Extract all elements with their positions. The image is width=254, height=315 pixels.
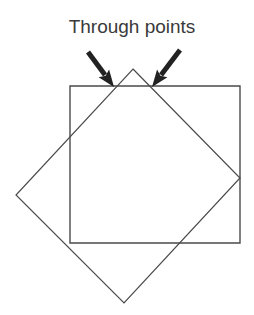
- geometry-figure: Through points: [0, 0, 254, 315]
- caption-through-points: Through points: [57, 16, 207, 38]
- figure-canvas: [0, 0, 254, 315]
- figure-background: [0, 0, 254, 315]
